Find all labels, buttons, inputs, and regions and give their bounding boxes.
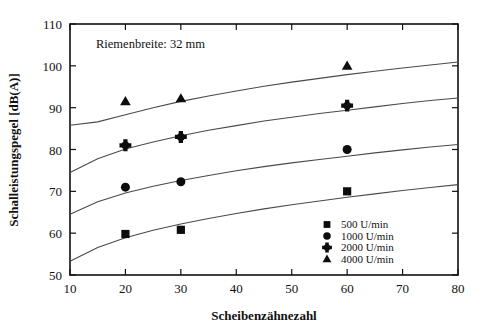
x-axis-tick-labels: 1020304050607080 [64,281,465,296]
x-tick-label: 50 [285,281,298,296]
x-tick-label: 70 [396,281,409,296]
data-point-0-1 [177,226,185,234]
marker-triangle [323,255,332,263]
legend-label-2: 2000 U/min [341,241,394,253]
x-tick-label: 40 [230,281,243,296]
marker-square [177,226,185,234]
data-point-1-2 [343,145,352,154]
marker-triangle [342,60,353,69]
trend-curve-3 [70,62,458,125]
chart-annotation: Riemenbreite: 32 mm [96,37,205,51]
y-axis-tick-labels: 5060708090100110 [43,17,63,283]
x-tick-label: 20 [119,281,132,296]
x-axis-label: Scheibenzähnezahl [211,308,317,323]
marker-triangle [176,93,187,102]
marker-square [343,187,351,195]
x-tick-label: 10 [64,281,77,296]
marker-plus-core [177,133,185,141]
data-point-3-1 [176,93,187,102]
legend-label-0: 500 U/min [341,218,389,230]
marker-circle [343,145,352,154]
data-point-2-0 [119,139,131,151]
legend-marker-2 [322,243,332,253]
data-point-3-0 [120,96,131,105]
y-tick-label: 80 [49,143,62,158]
data-point-2-1 [175,131,187,143]
marker-triangle [120,96,131,105]
data-point-markers [119,60,353,238]
x-tick-label: 60 [341,281,354,296]
data-point-3-2 [342,60,353,69]
y-tick-label: 100 [43,59,63,74]
legend-marker-0 [324,221,331,228]
legend-marker-1 [323,232,330,239]
trend-curve-1 [70,144,458,214]
data-point-0-2 [343,187,351,195]
marker-square [324,221,331,228]
x-tick-label: 80 [452,281,465,296]
chart-legend: 500 U/min1000 U/min2000 U/min4000 U/min [322,218,394,265]
marker-circle [176,177,185,186]
marker-square [121,230,129,238]
marker-plus-core [343,102,351,110]
data-point-1-1 [176,177,185,186]
marker-circle [121,183,130,192]
y-tick-label: 70 [49,184,62,199]
chart-figure: 1020304050607080 5060708090100110 Riemen… [0,0,486,331]
y-tick-label: 110 [43,17,62,32]
legend-marker-3 [323,255,332,263]
chart-svg: 1020304050607080 5060708090100110 Riemen… [0,0,486,331]
y-tick-label: 60 [49,226,62,241]
legend-label-1: 1000 U/min [341,230,394,242]
x-tick-label: 30 [174,281,187,296]
marker-circle [323,232,330,239]
y-tick-label: 50 [49,268,62,283]
marker-plus-core [122,141,130,149]
trend-curve-0 [70,185,458,262]
trend-curve-2 [70,98,458,172]
y-axis-label: Schalleistungspegel [dB(A)] [6,73,21,226]
data-point-1-0 [121,183,130,192]
y-tick-label: 90 [49,101,62,116]
marker-plus-core [324,244,330,250]
data-point-0-0 [121,230,129,238]
legend-label-3: 4000 U/min [341,253,394,265]
